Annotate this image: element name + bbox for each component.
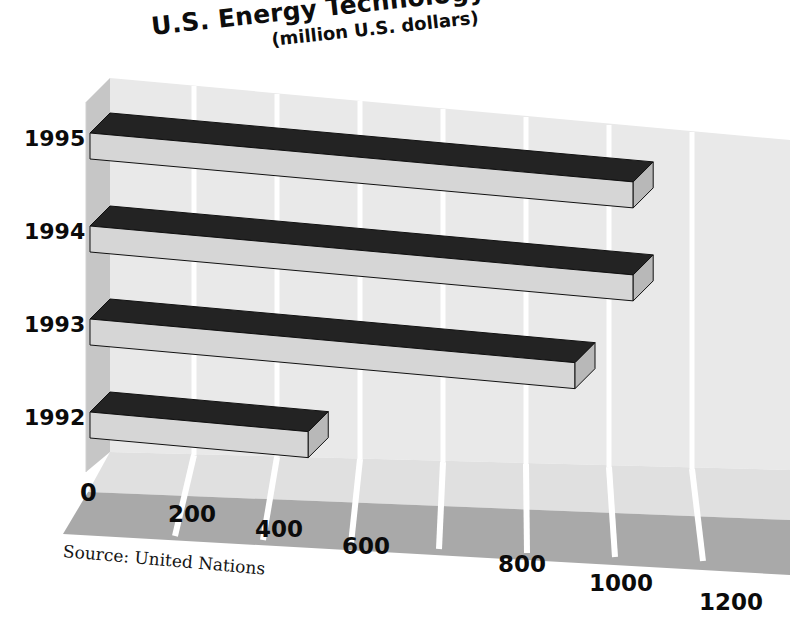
axis-tick-0: 0	[80, 479, 97, 507]
axis-label-year-1992: 1992	[24, 405, 85, 430]
axis-tick-800: 800	[498, 551, 546, 577]
axis-label-year-1995: 1995	[24, 126, 85, 151]
chart-figure: U.S. Energy Technology Exports to ASEAN …	[0, 0, 790, 626]
axis-label-year-1993: 1993	[24, 312, 85, 337]
axis-label-year-1994: 1994	[24, 219, 85, 244]
axis-tick-600: 600	[342, 533, 390, 559]
axis-tick-1000: 1000	[589, 570, 653, 596]
bar-chart-canvas	[0, 0, 790, 626]
axis-tick-400: 400	[255, 516, 303, 542]
axis-tick-200: 200	[168, 501, 216, 527]
axis-tick-1200: 1200	[699, 589, 763, 615]
